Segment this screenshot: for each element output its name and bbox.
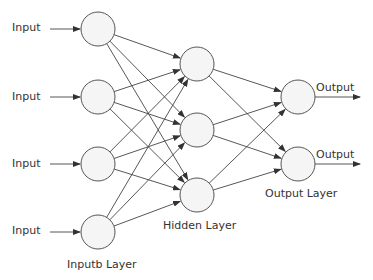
input-node-3 — [81, 147, 115, 181]
input-label-3: Input — [12, 158, 40, 170]
input-node-1 — [81, 12, 115, 46]
edge-i3-h2 — [114, 136, 180, 159]
output-label-2: Output — [316, 149, 354, 161]
network-diagram — [0, 0, 373, 280]
output-node-2 — [281, 147, 315, 181]
input-node-4 — [81, 215, 115, 249]
edge-i4-h2 — [110, 143, 185, 220]
output-node-1 — [281, 80, 315, 114]
edge-i1-h1 — [114, 35, 180, 58]
edge-i2-h2 — [114, 102, 180, 124]
input-label-4: Input — [12, 225, 40, 237]
output-label-1: Output — [316, 82, 354, 94]
input-label-1: Input — [12, 22, 40, 34]
input-node-2 — [81, 80, 115, 114]
input-label-2: Input — [12, 91, 40, 103]
edge-i4-h1 — [107, 80, 188, 218]
hidden-layer-label: Hidden Layer — [163, 220, 236, 232]
edge-i3-h3 — [114, 169, 180, 190]
edge-i1-h2 — [110, 41, 184, 117]
edge-i1-h3 — [107, 44, 188, 180]
output-layer-label: Output Layer — [265, 188, 337, 200]
edge-i3-h1 — [110, 77, 184, 152]
input-layer-label: Inputb Layer — [67, 259, 137, 271]
hidden-node-3 — [180, 178, 214, 212]
hidden-node-2 — [180, 113, 214, 147]
edge-h1-o1 — [213, 69, 281, 91]
hidden-node-1 — [180, 47, 214, 81]
edge-h3-o1 — [209, 110, 285, 184]
edge-h2-o1 — [213, 103, 281, 125]
